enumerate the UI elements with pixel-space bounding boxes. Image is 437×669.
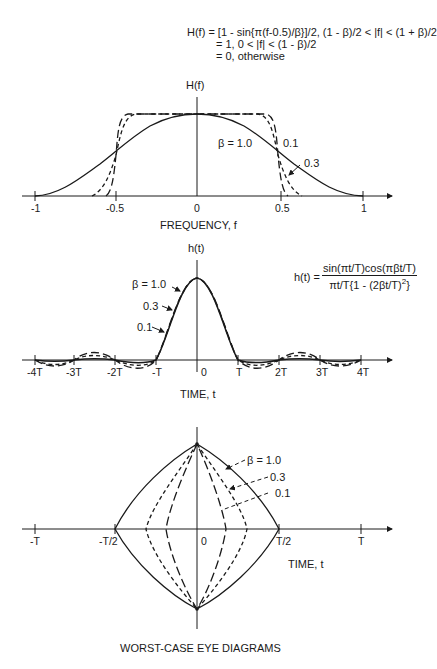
time-tick-neg3T: -3T [66, 367, 82, 378]
freq-tick-neg05: -0.5 [106, 203, 124, 214]
eye-tick-negT: -T [30, 536, 40, 547]
time-pointer-0.3 [162, 306, 172, 310]
eye-plot [22, 427, 392, 629]
time-tick-4T: 4T [357, 367, 369, 378]
freq-x-label: FREQUENCY, f [160, 220, 237, 231]
time-tick-neg4T: -4T [27, 367, 43, 378]
freq-label-beta-0.3: 0.3 [304, 158, 319, 169]
eye-caption: WORST-CASE EYE DIAGRAMS [120, 643, 281, 654]
formula-line-1: H(f) = [1 - sin{π(f-0.5)/β}]/2, (1 - β)/… [187, 26, 437, 38]
den-close: } [406, 279, 410, 291]
time-label-beta-0.3: 0.3 [143, 301, 158, 312]
time-curve-beta-0.3 [35, 278, 361, 365]
eye-label-beta-1.0: β = 1.0 [247, 455, 281, 466]
time-tick-negT: -T [152, 367, 162, 378]
time-formula-lhs: h(t) = [294, 272, 320, 283]
time-tick-neg2T: -2T [107, 367, 123, 378]
eye-x-label: TIME, t [288, 559, 323, 570]
freq-label-beta-1.0: β = 1.0 [218, 138, 252, 149]
freq-curve-beta-1.0 [35, 114, 363, 196]
time-formula-denominator: πt/T{1 - (2βt/T)2} [322, 276, 417, 291]
den-base: πt/T{1 - (2βt/T) [329, 279, 402, 291]
freq-pointer-0.3 [289, 165, 300, 175]
time-tick-0: 0 [201, 367, 207, 378]
time-pointer-0.1 [152, 327, 164, 332]
freq-label-beta-0.1: 0.1 [283, 138, 298, 149]
eye-tick-negT2: -T/2 [99, 536, 118, 547]
spectrum-formula: H(f) = [1 - sin{π(f-0.5)/β}]/2, (1 - β)/… [187, 26, 437, 62]
freq-tick-05: 0.5 [275, 203, 290, 214]
time-tick-3T: 3T [316, 367, 328, 378]
time-pointer-1.0 [172, 287, 180, 291]
time-label-beta-1.0: β = 1.0 [132, 279, 166, 290]
eye-label-beta-0.3: 0.3 [270, 472, 285, 483]
freq-tick-1: 1 [361, 203, 367, 214]
frequency-plot [22, 97, 392, 201]
time-curve-beta-1.0 [35, 278, 361, 363]
time-formula-fraction: sin(πt/T)cos(πβt/T) πt/T{1 - (2βt/T)2} [322, 262, 417, 291]
formula-line-3: = 0, otherwise [187, 50, 437, 62]
eye-tick-0: 0 [201, 536, 207, 547]
freq-tick-0: 0 [194, 203, 200, 214]
eye-tick-T: T [358, 536, 364, 547]
freq-y-label: H(f) [186, 80, 204, 91]
time-label-beta-0.1: 0.1 [137, 322, 152, 333]
formula-line-2: = 1, 0 < |f| < (1 - β)/2 [187, 38, 437, 50]
time-tick-2T: 2T [275, 367, 287, 378]
time-x-label: TIME, t [180, 389, 215, 400]
time-curve-beta-0.1 [35, 278, 361, 368]
eye-label-beta-0.1: 0.1 [275, 488, 290, 499]
freq-tick-neg1: -1 [31, 203, 40, 214]
eye-tick-T2: T/2 [276, 536, 291, 547]
time-formula-numerator: sin(πt/T)cos(πβt/T) [322, 262, 417, 276]
time-y-label: h(t) [188, 243, 205, 254]
eye-pointer-1.0 [226, 460, 245, 469]
time-tick-T: T [236, 367, 242, 378]
